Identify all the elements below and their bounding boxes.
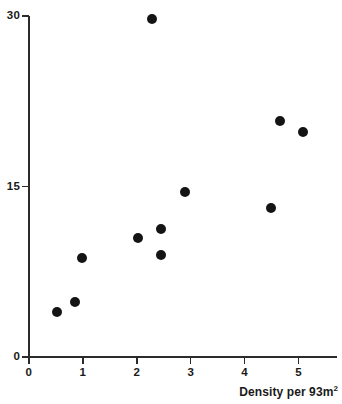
x-tick-label-0: 0 bbox=[25, 367, 32, 379]
data-point bbox=[70, 297, 80, 307]
x-tick-3 bbox=[190, 357, 192, 364]
x-tick-label-1: 1 bbox=[79, 367, 86, 379]
scatter-plot: 01530 012345 Density per 93m2 bbox=[0, 0, 342, 404]
x-tick-2 bbox=[136, 357, 138, 364]
data-point bbox=[180, 187, 190, 197]
y-tick-30 bbox=[22, 15, 29, 17]
x-tick-4 bbox=[244, 357, 246, 364]
data-point bbox=[52, 307, 62, 317]
data-point bbox=[147, 14, 157, 24]
data-point bbox=[266, 203, 276, 213]
x-axis-title-text: Density per 93m bbox=[239, 385, 333, 399]
data-point bbox=[156, 224, 166, 234]
y-tick-15 bbox=[22, 186, 29, 188]
data-point bbox=[77, 253, 87, 263]
x-tick-label-2: 2 bbox=[133, 367, 140, 379]
y-tick-label-0: 0 bbox=[13, 351, 20, 363]
x-axis-line bbox=[28, 356, 337, 358]
x-tick-0 bbox=[28, 357, 30, 364]
data-point bbox=[298, 127, 308, 137]
data-point bbox=[275, 116, 285, 126]
x-tick-label-5: 5 bbox=[295, 367, 302, 379]
x-axis-title: Density per 93m2 bbox=[0, 386, 338, 399]
y-tick-label-15: 15 bbox=[7, 181, 20, 193]
x-axis-title-superscript: 2 bbox=[333, 384, 338, 393]
data-point bbox=[156, 250, 166, 260]
x-tick-label-3: 3 bbox=[187, 367, 194, 379]
y-tick-label-30: 30 bbox=[7, 10, 20, 22]
x-tick-1 bbox=[82, 357, 84, 364]
data-point bbox=[133, 233, 143, 243]
x-tick-5 bbox=[298, 357, 300, 364]
x-tick-label-4: 4 bbox=[241, 367, 248, 379]
